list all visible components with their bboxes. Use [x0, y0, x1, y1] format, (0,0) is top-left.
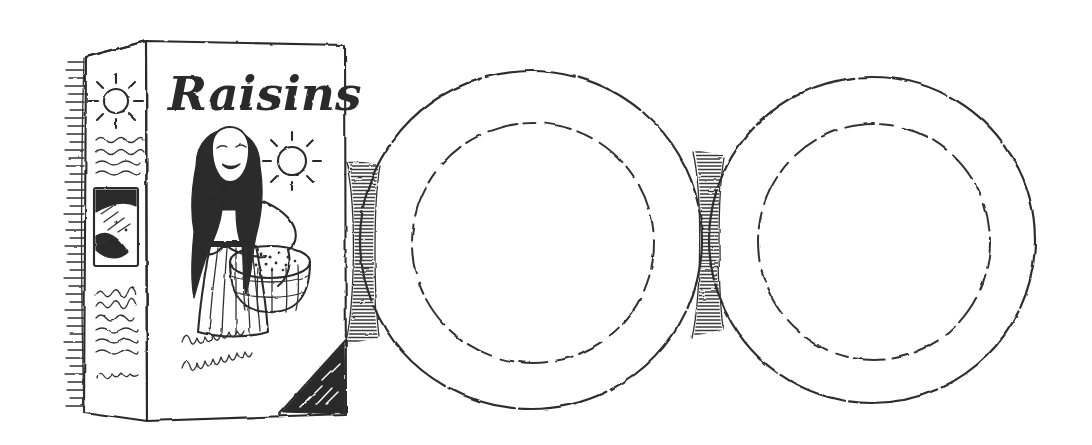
raisins-box[interactable]: Raisins	[64, 41, 361, 421]
box-side-panel	[89, 74, 144, 379]
plate-left[interactable]	[360, 71, 702, 409]
box-left-edge-texture	[64, 58, 84, 412]
plate-right[interactable]	[709, 77, 1035, 403]
plate-left-shading	[345, 160, 380, 346]
box-front-panel: Raisins	[166, 66, 361, 414]
side-squiggle-block-top	[96, 138, 144, 176]
side-squiggle-block-bottom	[96, 287, 138, 378]
corner-wedge	[279, 340, 346, 414]
box-headline: Raisins	[166, 66, 361, 121]
side-thumbnail	[94, 188, 138, 266]
box-headline-text: Raisins	[166, 66, 361, 121]
sun-icon	[89, 74, 143, 128]
front-sun-icon	[263, 132, 321, 190]
basket-of-raisins	[230, 246, 310, 313]
plate-right-shading	[692, 150, 724, 338]
illustration-canvas: Raisins box with two empty plates	[0, 0, 1092, 445]
woman-with-basket-figure	[192, 127, 310, 337]
